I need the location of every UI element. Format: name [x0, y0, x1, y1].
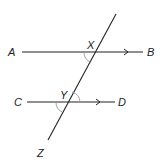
transversal-line — [48, 14, 116, 140]
label-c: C — [14, 96, 22, 108]
angle-arc-y-lower — [56, 102, 62, 112]
label-z: Z — [36, 147, 45, 159]
label-x: X — [86, 39, 95, 51]
label-b: B — [147, 46, 154, 58]
label-a: A — [7, 46, 15, 58]
angle-arc-x — [84, 52, 90, 62]
parallel-lines-diagram: A B C D X Y Z — [0, 0, 162, 162]
label-d: D — [118, 96, 126, 108]
label-y: Y — [60, 89, 68, 101]
